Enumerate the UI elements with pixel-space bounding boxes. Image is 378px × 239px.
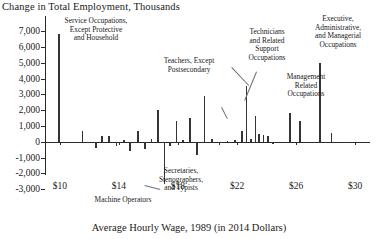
bar (108, 136, 110, 142)
y-tick-mark (41, 63, 45, 64)
x-tick-marks (45, 142, 370, 146)
annotation-technicians: Technicians and Related Support Occupati… (236, 28, 298, 62)
x-tick-label: $22 (230, 181, 244, 191)
annotation-executive: Executive, Administrative, and Manageria… (299, 15, 377, 49)
chart-title: Change in Total Employment, Thousands (2, 1, 180, 12)
bar (58, 34, 60, 141)
bar (82, 131, 84, 142)
x-tick-label: $14 (112, 181, 126, 191)
bar (267, 136, 269, 142)
employment-change-chart: Change in Total Employment, Thousands 7,… (0, 0, 378, 239)
x-tick-mark (237, 142, 238, 145)
x-tick-mark (178, 142, 179, 145)
bar (258, 134, 260, 142)
x-tick-label: $10 (53, 181, 67, 191)
bar (204, 96, 206, 142)
annotation-machine: Machine Operators (85, 196, 161, 205)
y-tick-label: 3,000 (2, 89, 45, 99)
bar (157, 110, 159, 142)
bar (176, 121, 178, 142)
y-tick-mark (41, 158, 45, 159)
y-tick-mark (41, 31, 45, 32)
annotation-management: Management Related Occupations (275, 73, 337, 99)
y-tick-label: 1,000 (2, 121, 45, 131)
y-tick-mark (41, 126, 45, 127)
y-tick-mark (41, 47, 45, 48)
y-tick-mark (41, 94, 45, 95)
x-axis-title: Average Hourly Wage, 1989 (in 2014 Dolla… (0, 222, 378, 233)
bar (255, 116, 257, 141)
y-tick-label: -1,000 (2, 153, 45, 163)
y-tick-label: 5,000 (2, 58, 45, 68)
bar (101, 136, 103, 142)
y-tick-mark (41, 110, 45, 111)
y-tick-label: 0 (2, 137, 45, 147)
bar (189, 118, 191, 142)
annotation-teachers: Teachers, Except Postsecondary (146, 57, 232, 74)
x-tick-label: $30 (348, 181, 362, 191)
y-tick-label: 4,000 (2, 74, 45, 84)
bar (241, 131, 243, 142)
bar (289, 113, 291, 141)
y-tick-mark (41, 79, 45, 80)
y-tick-label: 7,000 (2, 26, 45, 36)
x-tick-mark (296, 142, 297, 145)
x-tick-mark (119, 142, 120, 145)
x-tick-mark (60, 142, 61, 145)
bar (137, 131, 139, 141)
bar (263, 135, 265, 142)
y-tick-label: 6,000 (2, 42, 45, 52)
y-tick-mark (41, 173, 45, 174)
bar (299, 121, 301, 142)
y-tick-label: 2,000 (2, 105, 45, 115)
y-tick-label: -3,000 (2, 184, 45, 194)
annotation-service: Service Occupations, Except Protective a… (48, 17, 144, 43)
annotation-secretaries: Secretaries, Stenographers, and Typists (142, 167, 220, 193)
x-tick-mark (355, 142, 356, 145)
x-tick-label: $26 (289, 181, 303, 191)
y-tick-label: -2,000 (2, 168, 45, 178)
bar (331, 133, 333, 141)
